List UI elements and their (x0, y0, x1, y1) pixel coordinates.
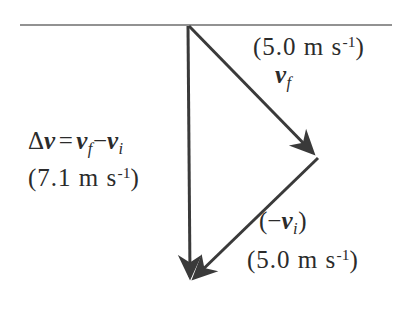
neg-v-initial-label: (−vi) (5.0 m s-1) (259, 206, 358, 274)
neg-v-initial-symbol: (−vi) (259, 206, 358, 239)
delta-v-label: Δv=vf−vi (7.1 m s-1) (28, 126, 139, 192)
neg-v-initial-magnitude: (5.0 m s-1) (247, 245, 358, 275)
delta-v-arrow (188, 26, 190, 277)
v-final-magnitude: (5.0 m s-1) (253, 32, 364, 62)
delta-v-equation: Δv=vf−vi (28, 126, 139, 159)
v-final-label: (5.0 m s-1) vf (253, 32, 364, 92)
v-final-symbol: vf (275, 60, 364, 93)
vector-diagram-figure: (5.0 m s-1) vf Δv=vf−vi (7.1 m s-1) (−vi… (0, 0, 399, 309)
delta-v-magnitude: (7.1 m s-1) (28, 163, 139, 193)
